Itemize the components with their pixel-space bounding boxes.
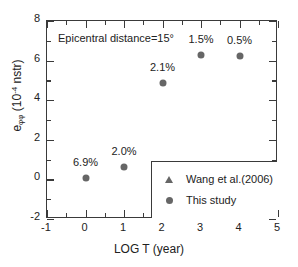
axis-tick <box>47 199 51 200</box>
axis-tick <box>47 61 54 62</box>
axis-tick <box>278 210 279 217</box>
y-axis-label: eφφ (10-4 nstr) <box>10 31 25 161</box>
axis-tick <box>278 21 279 28</box>
y-axis-label-base: e <box>10 125 24 132</box>
x-tick-label: 0 <box>70 221 100 233</box>
axis-tick <box>259 21 260 25</box>
data-point <box>159 80 166 87</box>
axis-tick <box>143 213 144 217</box>
axis-tick <box>269 100 276 101</box>
data-point <box>236 52 243 59</box>
axis-tick <box>47 140 54 141</box>
axis-tick <box>182 21 183 25</box>
y-axis-label-superscript: -4 <box>10 87 19 94</box>
axis-tick <box>47 41 51 42</box>
triangle-marker-icon <box>158 176 180 183</box>
legend-label-this-study: This study <box>186 194 236 206</box>
axis-tick <box>47 21 54 22</box>
legend-label-wang: Wang et al.(2006) <box>186 173 273 185</box>
axis-tick <box>105 21 106 25</box>
axis-tick <box>124 210 125 217</box>
circle-marker-icon <box>158 197 180 204</box>
data-point-label: 6.9% <box>66 156 106 168</box>
data-point <box>82 175 89 182</box>
axis-tick <box>86 21 87 28</box>
axis-tick <box>269 140 276 141</box>
axis-tick <box>47 120 51 121</box>
axis-tick <box>47 160 51 161</box>
axis-tick <box>269 21 276 22</box>
axis-tick <box>86 210 87 217</box>
axis-tick <box>201 21 202 28</box>
axis-tick <box>269 219 276 220</box>
axis-tick <box>272 120 276 121</box>
data-point <box>198 51 205 58</box>
axis-tick <box>105 213 106 217</box>
axis-tick <box>47 219 54 220</box>
x-tick-label: 3 <box>185 221 215 233</box>
axis-tick <box>66 213 67 217</box>
x-tick-label: 5 <box>262 221 292 233</box>
y-tick-label: -2 <box>14 210 40 222</box>
y-axis-label-subscript: φφ <box>16 115 25 125</box>
y-tick-label: 0 <box>14 170 40 182</box>
axis-tick <box>47 100 54 101</box>
y-tick-label: 8 <box>14 12 40 24</box>
axis-tick <box>47 210 48 217</box>
legend-box: Wang et al.(2006) This study <box>151 161 277 218</box>
x-tick-label: -1 <box>31 221 61 233</box>
chart-figure: 6.9%2.0%2.1%1.5%0.5% -1012345 -202468 LO… <box>0 0 298 267</box>
axis-tick <box>272 80 276 81</box>
axis-tick <box>240 21 241 28</box>
y-axis-label-unit-pre: (10 <box>10 94 24 115</box>
legend-item-this-study: This study <box>152 190 278 210</box>
axis-tick <box>124 21 125 28</box>
axis-tick <box>143 21 144 25</box>
axis-tick <box>66 21 67 25</box>
data-point-label: 0.5% <box>220 34 260 46</box>
axis-tick <box>220 21 221 25</box>
axis-tick <box>272 41 276 42</box>
axis-tick <box>269 61 276 62</box>
data-point-label: 2.0% <box>104 145 144 157</box>
axis-tick <box>47 179 54 180</box>
axis-tick <box>163 21 164 28</box>
x-axis-label: LOG T (year) <box>0 242 298 256</box>
data-point <box>121 163 128 170</box>
data-point-label: 2.1% <box>143 61 183 73</box>
x-tick-label: 4 <box>224 221 254 233</box>
y-axis-label-unit-post: nstr) <box>10 59 24 86</box>
x-tick-label: 1 <box>108 221 138 233</box>
data-point-label: 1.5% <box>181 33 221 45</box>
x-tick-label: 2 <box>147 221 177 233</box>
epicentral-distance-annotation: Epicentral distance=15° <box>58 32 174 44</box>
legend-item-wang: Wang et al.(2006) <box>152 169 278 189</box>
axis-tick <box>47 80 51 81</box>
